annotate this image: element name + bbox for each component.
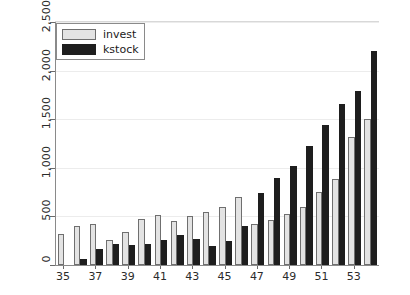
bar-group: [155, 22, 168, 265]
x-tick-label: 53: [342, 270, 366, 283]
bar-kstock: [161, 240, 167, 265]
x-tick-label: 39: [116, 270, 140, 283]
bar-kstock: [371, 51, 377, 265]
bar-kstock: [209, 246, 215, 265]
bar-group: [187, 22, 200, 265]
bar-kstock: [242, 226, 248, 265]
bar-kstock: [193, 239, 199, 265]
x-tick-label: 45: [213, 270, 237, 283]
bar-group: [284, 22, 297, 265]
bar-kstock: [80, 259, 86, 265]
x-tick-label: 35: [51, 270, 75, 283]
bar-group: [332, 22, 345, 265]
bar-group: [203, 22, 216, 265]
bar-group: [268, 22, 281, 265]
bar-kstock: [339, 104, 345, 265]
chart-legend: invest kstock: [56, 23, 145, 60]
bar-group: [219, 22, 232, 265]
x-tick-label: 43: [180, 270, 204, 283]
bar-kstock: [96, 249, 102, 265]
legend-label-kstock: kstock: [103, 44, 139, 55]
bar-group: [251, 22, 264, 265]
bar-kstock: [177, 235, 183, 265]
bar-kstock: [274, 178, 280, 265]
bar-kstock: [258, 193, 264, 265]
legend-item-kstock: kstock: [62, 43, 139, 55]
bar-group: [300, 22, 313, 265]
bar-kstock: [355, 91, 361, 265]
bar-group: [316, 22, 329, 265]
bar-kstock: [290, 166, 296, 265]
x-tick-label: 49: [277, 270, 301, 283]
x-tick-label: 47: [245, 270, 269, 283]
chart-figure: 05001,0001,5002,0002,500 353739414345474…: [0, 0, 410, 295]
x-tick-label: 37: [83, 270, 107, 283]
legend-swatch-kstock: [62, 44, 96, 55]
bar-kstock: [226, 241, 232, 265]
bar-group: [364, 22, 377, 265]
bar-kstock: [322, 125, 328, 265]
bar-invest: [58, 234, 64, 265]
legend-label-invest: invest: [103, 29, 136, 40]
x-tick-label: 51: [309, 270, 333, 283]
bar-kstock: [145, 244, 151, 265]
bar-group: [348, 22, 361, 265]
legend-item-invest: invest: [62, 28, 139, 40]
bar-kstock: [129, 245, 135, 265]
x-tick-label: 41: [148, 270, 172, 283]
bar-kstock: [306, 146, 312, 265]
bar-kstock: [113, 244, 119, 265]
legend-swatch-invest: [62, 29, 96, 40]
bar-group: [235, 22, 248, 265]
bar-group: [171, 22, 184, 265]
